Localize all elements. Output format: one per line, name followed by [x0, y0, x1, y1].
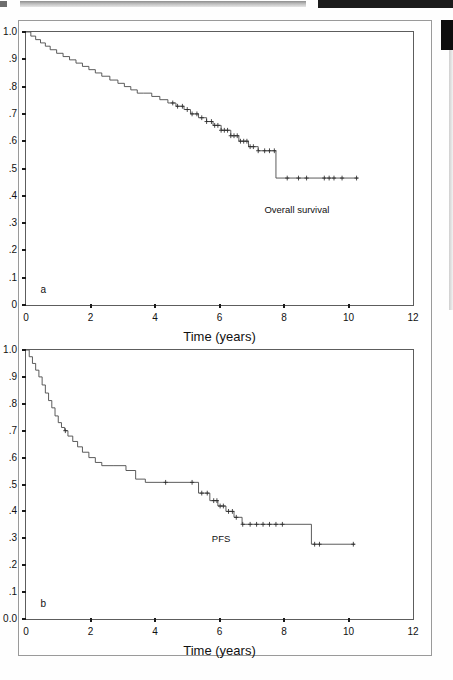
censor-mark	[216, 123, 220, 128]
curve-label-pfs: PFS	[212, 533, 230, 544]
figure-page: Overall survival a 1.0.9.8.7.6.5.4.3.2.1…	[0, 0, 453, 680]
y-tick-label: .2	[0, 560, 17, 570]
x-tick-mark	[154, 618, 156, 622]
y-tick-label: 1.0	[0, 345, 17, 355]
x-tick-mark	[219, 618, 221, 622]
censor-mark	[200, 115, 204, 120]
censor-mark	[164, 480, 168, 485]
y-tick-mark	[22, 304, 26, 306]
y-tick-label: .8	[0, 82, 17, 92]
censor-mark	[225, 128, 229, 133]
x-axis-title-b: Time (years)	[120, 643, 320, 658]
x-tick-label: 8	[273, 627, 295, 637]
x-tick-label: 0	[15, 313, 37, 323]
panel-b-pfs: PFS b 1.0.9.8.7.6.5.4.3.2.10.0 024681012…	[19, 343, 433, 655]
y-tick-label: .1	[0, 273, 17, 283]
y-tick-mark	[22, 58, 26, 60]
y-tick-label: 0.0	[0, 614, 17, 624]
x-tick-label: 2	[80, 627, 102, 637]
censor-mark	[267, 148, 271, 153]
scan-artifact-right-tab	[441, 20, 453, 50]
x-tick-label: 8	[273, 313, 295, 323]
y-tick-mark	[22, 140, 26, 142]
y-tick-label: 0	[0, 300, 17, 310]
censor-mark	[317, 542, 321, 547]
y-tick-mark	[22, 457, 26, 459]
x-tick-label: 12	[402, 627, 424, 637]
censor-mark	[351, 542, 355, 547]
y-tick-mark	[22, 168, 26, 170]
censor-mark	[205, 491, 209, 496]
censor-mark	[254, 522, 258, 527]
censor-mark	[171, 101, 175, 106]
censor-mark	[251, 144, 255, 149]
x-tick-label: 4	[144, 313, 166, 323]
censor-mark	[215, 498, 219, 503]
censor-mark	[200, 491, 204, 496]
censor-mark	[322, 176, 326, 181]
x-tick-label: 6	[209, 313, 231, 323]
y-tick-mark	[22, 591, 26, 593]
y-tick-mark	[22, 86, 26, 88]
censor-mark	[304, 176, 308, 181]
y-tick-label: .8	[0, 399, 17, 409]
y-tick-label: .3	[0, 218, 17, 228]
y-tick-mark	[22, 222, 26, 224]
censor-mark	[63, 428, 67, 433]
x-tick-label: 4	[144, 627, 166, 637]
y-tick-label: .7	[0, 426, 17, 436]
x-tick-mark	[348, 618, 350, 622]
x-tick-mark	[219, 304, 221, 308]
censor-mark	[221, 504, 225, 509]
y-tick-label: .5	[0, 480, 17, 490]
x-tick-mark	[90, 618, 92, 622]
x-tick-mark	[283, 304, 285, 308]
censor-mark	[226, 509, 230, 514]
x-axis-title-a: Time (years)	[120, 329, 320, 344]
scan-artifact-gray-bar	[20, 1, 306, 7]
y-tick-label: .9	[0, 372, 17, 382]
y-tick-mark	[22, 484, 26, 486]
y-tick-label: .2	[0, 245, 17, 255]
censor-mark	[285, 176, 289, 181]
y-tick-label: .4	[0, 506, 17, 516]
panel-letter-b: b	[41, 598, 47, 609]
y-tick-mark	[22, 113, 26, 115]
y-tick-mark	[22, 537, 26, 539]
censor-mark	[313, 542, 317, 547]
y-tick-label: 1.0	[0, 27, 17, 37]
censor-mark	[256, 148, 260, 153]
censor-mark	[185, 107, 189, 112]
survival-curve-b	[26, 350, 413, 619]
y-tick-mark	[22, 376, 26, 378]
plot-area-b: PFS b	[25, 349, 414, 620]
x-tick-label: 10	[338, 627, 360, 637]
panel-letter-a: a	[41, 284, 47, 295]
y-tick-mark	[22, 403, 26, 405]
x-tick-mark	[283, 618, 285, 622]
y-tick-mark	[22, 618, 26, 620]
y-tick-label: .6	[0, 136, 17, 146]
y-tick-mark	[22, 564, 26, 566]
censor-mark	[241, 522, 245, 527]
x-tick-label: 6	[209, 627, 231, 637]
censor-mark	[205, 119, 209, 124]
censor-mark	[190, 480, 194, 485]
censor-mark	[332, 176, 336, 181]
panel-a-overall-survival: Overall survival a 1.0.9.8.7.6.5.4.3.2.1…	[19, 23, 433, 341]
x-tick-mark	[348, 304, 350, 308]
scan-artifact-black-bar	[318, 0, 453, 8]
censor-mark	[248, 522, 252, 527]
censor-mark	[267, 522, 271, 527]
censor-mark	[280, 522, 284, 527]
y-tick-label: .5	[0, 164, 17, 174]
x-tick-label: 10	[338, 313, 360, 323]
censor-mark	[263, 148, 267, 153]
y-tick-label: .1	[0, 587, 17, 597]
y-tick-label: .6	[0, 453, 17, 463]
scan-artifact-dot	[0, 1, 7, 7]
curve-label-overall-survival: Overall survival	[264, 204, 329, 215]
censor-mark	[296, 176, 300, 181]
km-step-line	[26, 350, 355, 544]
censor-mark	[274, 522, 278, 527]
